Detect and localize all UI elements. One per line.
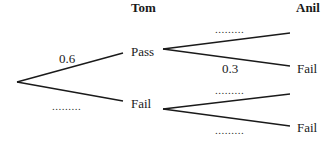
node-anil-fail-after-pass: Fail [297,62,317,75]
header-tom: Tom [131,1,156,14]
tree-branches [0,0,328,149]
prob-fail-anil-fail-blank: ......... [215,125,244,136]
prob-tom-fail-blank: ......... [52,101,81,112]
prob-tom-pass: 0.6 [59,52,75,65]
probability-tree-diagram: Tom Anil Pass Fail 0.6 ......... .......… [0,0,328,149]
node-anil-fail-after-fail: Fail [297,121,317,134]
branch-root-to-fail [17,82,123,101]
node-tom-fail: Fail [131,97,151,110]
header-anil: Anil [296,1,320,14]
branch-pass-to-upper [163,33,290,49]
prob-pass-anil-fail: 0.3 [222,62,238,75]
branch-fail-to-upper [163,94,290,109]
node-tom-pass: Pass [131,45,154,58]
prob-fail-anil-pass-blank: ......... [215,85,244,96]
prob-pass-anil-pass-blank: ......... [215,24,244,35]
